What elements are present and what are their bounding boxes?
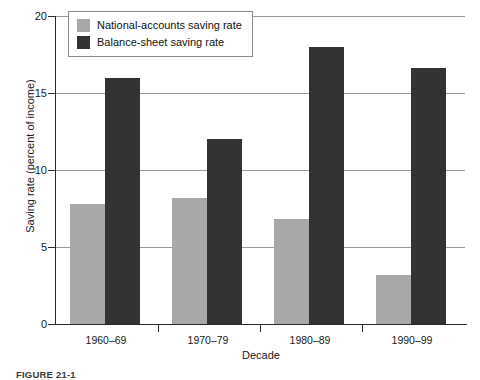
y-tick-mark-20 [48, 16, 55, 17]
y-axis-title-wrap: Saving rate (percent of income) [0, 0, 20, 340]
bar-national-1990-99 [376, 275, 411, 324]
x-tick-mark-2 [260, 325, 261, 332]
legend-swatch-balance-sheet [77, 36, 90, 49]
chart-legend: National-accounts saving rate Balance-sh… [68, 11, 253, 57]
x-tick-mark-3 [362, 325, 363, 332]
bar-balance-1970-79 [207, 139, 242, 324]
bar-balance-1980-89 [309, 47, 344, 324]
legend-swatch-national-accounts [77, 19, 90, 32]
bar-national-1980-89 [274, 219, 309, 324]
legend-item-balance-sheet: Balance-sheet saving rate [77, 34, 242, 51]
y-tick-mark-15 [48, 93, 55, 94]
bar-national-1970-79 [172, 198, 207, 324]
x-axis-title: Decade [55, 349, 467, 361]
x-tick-mark-1 [158, 325, 159, 332]
y-tick-mark-0 [48, 324, 55, 325]
bar-national-1960-69 [70, 204, 105, 324]
x-axis-line [55, 324, 467, 325]
x-tick-label-1990-99: 1990–99 [352, 334, 472, 346]
legend-label-balance-sheet: Balance-sheet saving rate [97, 36, 224, 49]
bar-group-1980-89 [274, 16, 346, 324]
y-axis-title: Saving rate (percent of income) [24, 31, 36, 281]
y-tick-mark-10 [48, 170, 55, 171]
figure-caption: FIGURE 21-1 [16, 369, 466, 380]
bar-balance-1990-99 [411, 68, 446, 324]
bar-group-1970-79 [172, 16, 244, 324]
bar-group-1960-69 [70, 16, 142, 324]
bars-layer [56, 16, 466, 324]
figure-caption-label: FIGURE 21-1 [16, 369, 76, 380]
legend-label-national-accounts: National-accounts saving rate [97, 19, 242, 32]
bar-group-1990-99 [376, 16, 448, 324]
figure-container: 20 15 10 5 0 1960–69 1970–79 1980–8 [0, 0, 480, 380]
legend-item-national-accounts: National-accounts saving rate [77, 17, 242, 34]
bar-balance-1960-69 [105, 78, 140, 324]
y-tick-mark-5 [48, 247, 55, 248]
